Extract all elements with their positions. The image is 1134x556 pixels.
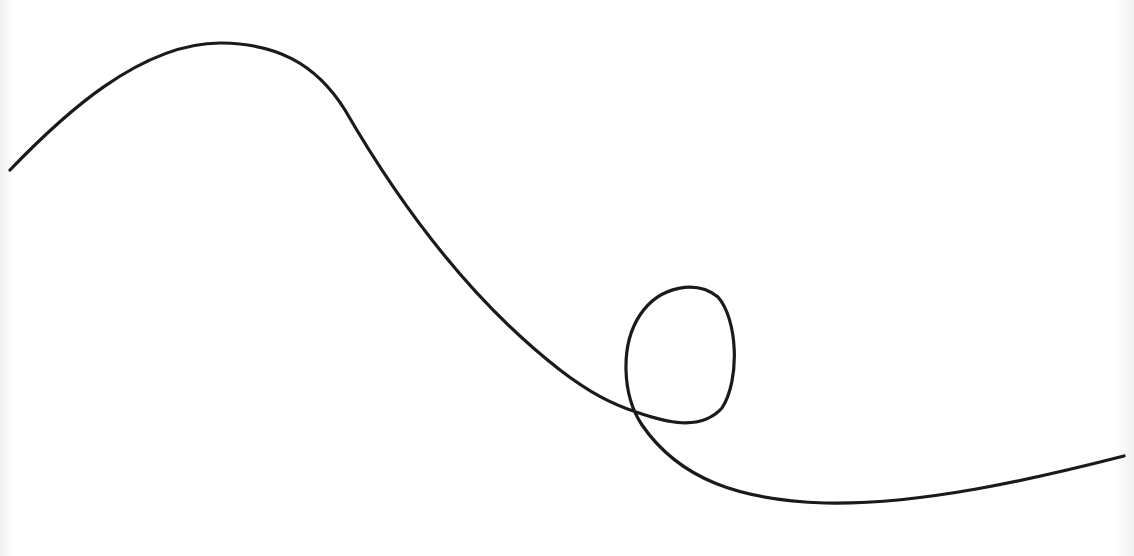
curve-drawing	[0, 0, 1134, 556]
looped-curve-line	[10, 43, 1124, 503]
drawing-canvas: A single black hand-drawn curve on a whi…	[0, 0, 1134, 556]
